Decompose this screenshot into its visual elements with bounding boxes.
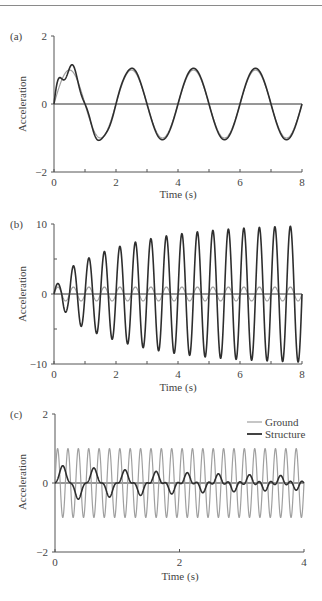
y-tick-label: 2 xyxy=(42,30,48,42)
legend: Ground Structure xyxy=(247,416,305,440)
panel-c: (c) Acceleration Time (s) −202024 Ground… xyxy=(10,408,307,583)
y-axis-title: Acceleration xyxy=(16,453,28,510)
x-tick-label: 0 xyxy=(52,556,58,568)
y-axis-title: Acceleration xyxy=(16,265,28,322)
y-tick-label: 0 xyxy=(43,477,49,489)
x-axis-title: Time (s) xyxy=(159,381,197,394)
series-structure xyxy=(54,65,302,141)
panel-b: (b) Acceleration Time (s) −1001002468 xyxy=(10,218,305,394)
x-tick-label: 2 xyxy=(113,176,119,188)
legend-label-ground: Ground xyxy=(265,416,299,428)
y-tick-label: 0 xyxy=(42,98,48,110)
y-tick-label: −10 xyxy=(30,358,48,370)
figure: (a) Acceleration Time (s) −20202468 (b) … xyxy=(0,0,322,601)
x-tick-label: 4 xyxy=(175,176,181,188)
x-tick-label: 2 xyxy=(113,368,119,380)
panel-a: (a) Acceleration Time (s) −20202468 xyxy=(10,30,305,201)
series-group xyxy=(54,65,302,141)
x-axis-title: Time (s) xyxy=(161,570,199,583)
y-axis-title: Acceleration xyxy=(16,75,28,132)
x-axis-title: Time (s) xyxy=(159,188,197,201)
x-tick-label: 4 xyxy=(301,556,307,568)
y-tick-label: 10 xyxy=(36,218,48,230)
x-tick-label: 0 xyxy=(51,176,57,188)
x-tick-label: 6 xyxy=(237,368,243,380)
x-tick-label: 0 xyxy=(51,368,57,380)
y-tick-label: 2 xyxy=(43,408,49,420)
panel-label: (b) xyxy=(10,218,23,231)
panel-label: (c) xyxy=(10,408,23,421)
y-tick-label: −2 xyxy=(35,166,47,178)
x-tick-label: 8 xyxy=(299,176,305,188)
axes: −20202468 xyxy=(35,30,305,188)
x-tick-label: 4 xyxy=(175,368,181,380)
x-tick-label: 2 xyxy=(177,556,183,568)
panel-label: (a) xyxy=(10,30,23,43)
y-tick-label: 0 xyxy=(42,288,48,300)
x-tick-label: 8 xyxy=(299,368,305,380)
x-tick-label: 6 xyxy=(237,176,243,188)
y-tick-label: −2 xyxy=(36,546,48,558)
legend-label-structure: Structure xyxy=(265,428,305,440)
